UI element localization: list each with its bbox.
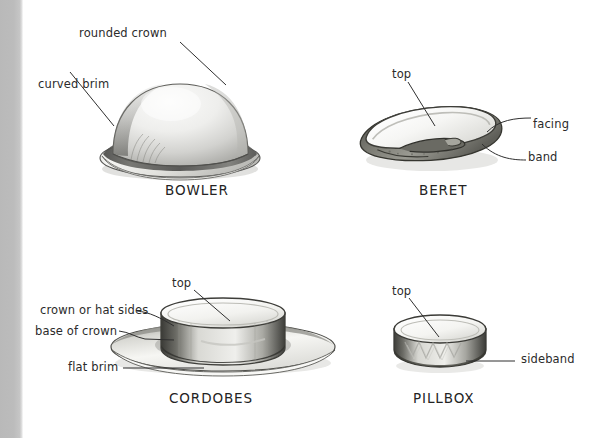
caption-bowler: BOWLER <box>165 182 229 198</box>
label-band: band <box>528 151 558 164</box>
pillbox-illustration <box>385 312 495 374</box>
label-base-of-crown: base of crown <box>35 325 117 338</box>
label-facing: facing <box>533 118 569 131</box>
caption-beret: BERET <box>419 182 467 198</box>
label-crown-or-hat-sides: crown or hat sides <box>40 304 148 317</box>
page-gutter-shadow <box>0 0 23 438</box>
label-curved-brim: curved brim <box>38 78 109 91</box>
caption-cordobes: CORDOBES <box>169 390 253 406</box>
label-pillbox-top: top <box>392 285 411 298</box>
beret-illustration <box>352 100 512 175</box>
hat-types-diagram-page: rounded crown curved brim BOWLER <box>0 0 596 438</box>
label-sideband: sideband <box>521 353 575 366</box>
caption-pillbox: PILLBOX <box>413 390 475 406</box>
label-beret-top: top <box>392 68 411 81</box>
label-flat-brim: flat brim <box>68 361 118 374</box>
label-rounded-crown: rounded crown <box>79 27 167 40</box>
label-cordobes-top: top <box>172 277 191 290</box>
bowler-illustration <box>85 70 270 185</box>
